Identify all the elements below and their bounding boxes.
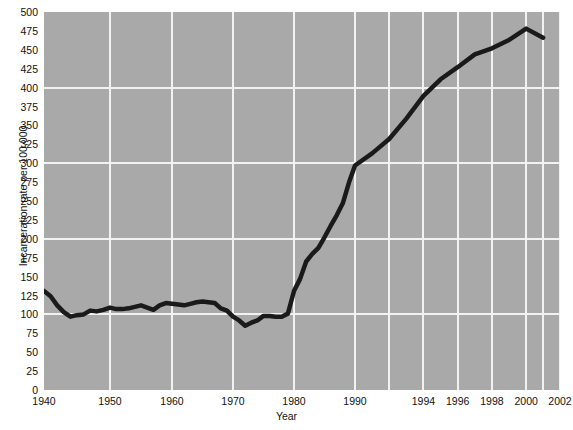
y-axis-tick-label: 325 [0,139,38,150]
x-axis-tick-label: 1970 [221,396,244,407]
y-axis-tick-label: 100 [0,309,38,320]
x-axis-tick-label: 1940 [32,396,55,407]
chart-container: Incarceration rate per 100,000 025507510… [0,0,573,430]
x-axis-tick-label: 1960 [160,396,183,407]
y-axis-tick-label: 350 [0,120,38,131]
y-axis-tick-label: 375 [0,102,38,113]
y-axis-tick-label: 275 [0,177,38,188]
y-axis-tick-label: 125 [0,291,38,302]
x-axis-tick-label: 1998 [480,396,503,407]
y-axis-tick-label: 175 [0,253,38,264]
x-axis-tick-label: 1980 [282,396,305,407]
y-axis-tick-label: 250 [0,196,38,207]
y-axis-tick-label: 475 [0,26,38,37]
y-axis-tick-label: 50 [0,347,38,358]
y-axis-tick-label: 150 [0,272,38,283]
x-axis-tick-label: 1990 [343,396,366,407]
y-axis-tick-label: 425 [0,64,38,75]
y-axis-tick-label: 200 [0,234,38,245]
data-series-layer [44,12,560,390]
y-axis-tick-label: 75 [0,328,38,339]
line-series-incarceration-rate [44,29,543,326]
y-axis-tick-label: 0 [0,385,38,396]
y-axis-tick-label: 450 [0,45,38,56]
y-axis-tick-label: 400 [0,83,38,94]
x-axis-tick-label: 1996 [446,396,469,407]
y-axis-tick-label: 25 [0,366,38,377]
y-axis-tick-label: 500 [0,7,38,18]
y-axis-tick-label: 300 [0,158,38,169]
x-axis-tick-label: 2002 [548,396,571,407]
x-axis-tick-label: 2000 [514,396,537,407]
x-axis-title: Year [0,410,573,422]
x-axis-tick-label: 1994 [412,396,435,407]
x-axis-tick-label: 1950 [98,396,121,407]
plot-area [44,12,560,390]
y-axis-tick-label: 225 [0,215,38,226]
y-axis-tick-labels: 0255075100125150175200225250275300325350… [0,0,40,430]
